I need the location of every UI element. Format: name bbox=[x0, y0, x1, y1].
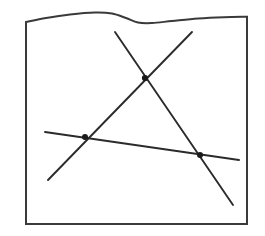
figure-canvas bbox=[0, 0, 265, 236]
figure-root bbox=[0, 0, 265, 236]
node-top bbox=[142, 75, 148, 81]
node-right bbox=[197, 152, 203, 158]
node-left bbox=[82, 134, 88, 140]
frame-interior bbox=[26, 12, 247, 224]
